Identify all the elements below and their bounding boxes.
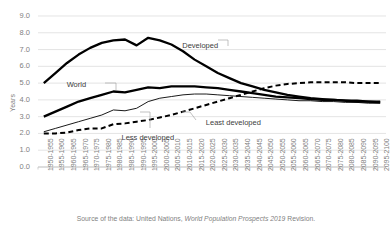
series-label-less-developed: Less developed [122, 133, 175, 142]
annotation-leader-line [182, 112, 196, 120]
chart-container: Years 0.01.02.03.04.05.06.07.08.09.0 195… [0, 0, 392, 225]
x-tick-label: 2065-2070 [314, 138, 321, 171]
x-tick-label: 1950-1955 [47, 138, 54, 171]
x-tick-label: 1975-1980 [105, 138, 112, 171]
x-tick-label: 2070-2075 [325, 138, 332, 171]
x-tick-label: 2005-2010 [174, 138, 181, 171]
x-tick-label: 2010-2015 [186, 138, 193, 171]
x-tick-label: 1980-1985 [116, 138, 123, 171]
series-label-world: World [67, 80, 86, 89]
x-tick-label: 2020-2025 [209, 138, 216, 171]
x-tick-label: 2095-2100 [383, 138, 390, 171]
x-tick-label: 1955-1960 [58, 138, 65, 171]
x-tick-label: 2045-2050 [267, 138, 274, 171]
x-tick-label: 2080-2085 [348, 138, 355, 171]
annotation-leader-line [218, 40, 228, 46]
x-tick-label: 2060-2065 [302, 138, 309, 171]
x-tick-label: 1990-1995 [140, 138, 147, 171]
x-tick-label: 1985-1990 [128, 138, 135, 171]
x-tick-label: 2015-2020 [198, 138, 205, 171]
series-label-least-developed: Least developed [206, 118, 261, 127]
x-tick-label: 2090-2095 [372, 138, 379, 171]
series-label-developed: Developed [182, 41, 218, 50]
x-tick-label: 2000-2005 [163, 138, 170, 171]
x-tick-label: 1965-1970 [82, 138, 89, 171]
x-tick-label: 2040-2045 [256, 138, 263, 171]
x-tick-label: 1970-1975 [93, 138, 100, 171]
annotation-leader-line [105, 83, 116, 90]
x-tick-label: 2030-2035 [232, 138, 239, 171]
x-tick-label: 2055-2060 [290, 138, 297, 171]
source-suffix: Revision. [285, 215, 315, 222]
x-tick-label: 1995-2000 [151, 138, 158, 171]
x-tick-label: 2085-2090 [360, 138, 367, 171]
source-italic-title: World Population Prospects 2019 [184, 215, 285, 222]
plot-area [0, 0, 392, 225]
source-note: Source of the data: United Nations, Worl… [0, 215, 392, 222]
x-tick-label: 2035-2040 [244, 138, 251, 171]
x-tick-label: 2075-2080 [337, 138, 344, 171]
x-tick-label: 1960-1965 [70, 138, 77, 171]
x-tick-label: 2025-2030 [221, 138, 228, 171]
x-tick-label: 2050-2055 [279, 138, 286, 171]
source-prefix: Source of the data: United Nations, [77, 215, 185, 222]
